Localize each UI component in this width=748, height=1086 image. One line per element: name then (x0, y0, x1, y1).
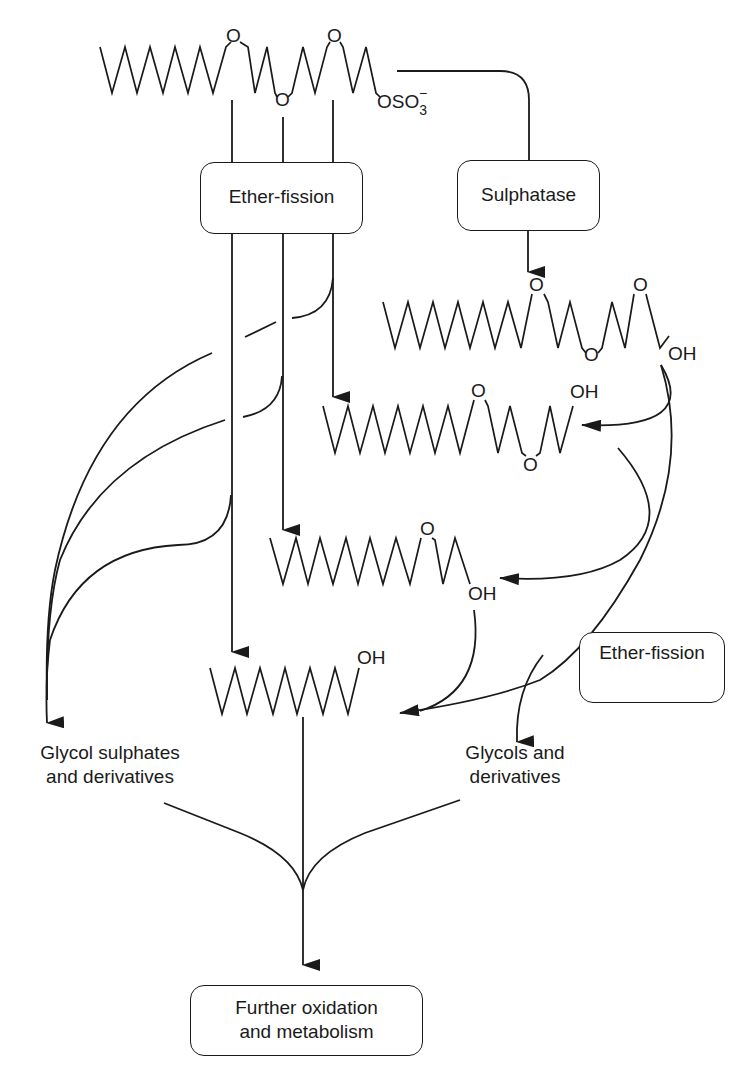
pathway-diagram-canvas (0, 0, 748, 1086)
atom-o: O (584, 345, 599, 365)
ether-fission-box-right: Ether-fission (579, 632, 725, 703)
atom-o: O (275, 90, 290, 110)
molecule-two-ether-removed-chain (270, 538, 470, 584)
hydroxyl-group: OH (357, 648, 386, 668)
sulphatase-input-line (397, 71, 529, 160)
final-box-line-1: Further oxidation (191, 996, 422, 1020)
atom-o: O (523, 455, 538, 475)
atom-o: O (226, 26, 241, 46)
molecule-alcohol-chain (210, 668, 359, 714)
molecule-desulphated-chain (383, 294, 669, 353)
ether-fission-box-top: Ether-fission (200, 162, 363, 234)
atom-o: O (529, 275, 544, 295)
hydroxyl-group: OH (668, 344, 697, 364)
atom-o: O (633, 275, 648, 295)
glycol-sulphate-branches (46, 278, 333, 723)
hydroxyl-group: OH (570, 382, 599, 402)
molecule-one-ether-removed-chain (323, 400, 573, 456)
hydroxyl-group: OH (468, 584, 497, 604)
final-metabolism-box: Further oxidation and metabolism (190, 985, 423, 1056)
atom-o: O (420, 519, 435, 539)
molecule-start-chain (100, 42, 380, 97)
glycol-sulphates-label: Glycol sulphates and derivatives (10, 741, 210, 789)
final-box-line-2: and metabolism (191, 1020, 422, 1044)
glycols-label: Glycols and derivatives (430, 741, 600, 789)
sulphate-group: OSO3− (377, 92, 435, 113)
atom-o: O (327, 26, 342, 46)
atom-o: O (471, 381, 486, 401)
sulphatase-box: Sulphatase (457, 160, 600, 231)
